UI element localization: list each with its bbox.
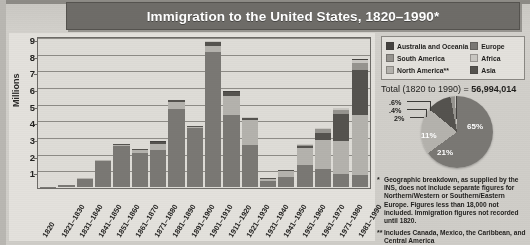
pie-slice-label-asia: 11% [421,131,437,140]
legend-swatch-icon [470,42,478,50]
legend-item-africa: Africa [470,52,520,64]
bar-segment [150,150,166,187]
bar-segment [58,185,74,187]
total-line: Total (1820 to 1990) = 56,994,014 [381,84,529,94]
bar-segment [223,96,239,115]
y-axis-tick-mark [34,158,37,159]
scan-edge-left [0,0,6,245]
page-title: Immigration to the United States, 1820–1… [147,9,440,24]
bar-segment [242,120,258,145]
bar-segment [77,179,93,187]
bar-segment [352,115,368,175]
y-axis-tick-label: 8 [9,52,35,63]
bar-column [39,37,57,187]
pie-slice-label-europe: 65% [467,122,483,131]
bar-stack [150,37,166,187]
legend-item-label: South America [397,55,445,62]
bar-series-group [39,37,369,187]
footnote-text: Includes Canada, Mexico, the Caribbean, … [384,229,527,245]
pie-chart: 65% 21% 11% 2% .4% .6% [381,96,529,170]
bar-segment [242,145,258,187]
bar-stack [132,37,148,187]
y-axis-tick-label: 7 [9,68,35,79]
bar-stack [352,37,368,187]
bar-segment [333,141,349,174]
pie-callout-oceania: .6% [389,98,401,107]
y-axis-tick-label: 2 [9,152,35,163]
x-axis-labels: 18201821–18301831–18401841–18501851–1860… [38,191,372,239]
leader-line-south-america [410,117,424,118]
legend-swatch-icon [386,66,394,74]
x-axis-tick-label: 1820 [41,220,57,239]
y-axis-tick-mark [34,91,37,92]
bar-segment [352,63,368,70]
footnote-marker: ** [377,229,382,236]
bar-stack [333,37,349,187]
page-background: Immigration to the United States, 1820–1… [0,0,530,245]
bar-segment [297,148,313,165]
plot-area [37,37,371,189]
bar-stack [187,37,203,187]
y-axis-tick-label: 6 [9,85,35,96]
leader-line-oceania [407,101,431,102]
bar-segment [333,174,349,187]
y-axis-tick-mark [34,141,37,142]
bar-column [332,37,350,187]
y-axis-tick-mark [34,124,37,125]
bar-stack [205,37,221,187]
legend-swatch-icon [470,66,478,74]
bar-segment [315,133,331,140]
bar-column [296,37,314,187]
legend-column-right: EuropeAfricaAsia [470,40,520,76]
bar-segment [315,140,331,169]
legend-item-europe: Europe [470,40,520,52]
bar-segment [260,181,276,187]
bar-column [277,37,295,187]
bar-stack [242,37,258,187]
bar-segment [223,115,239,188]
pie-callout-south-america: 2% [394,114,404,123]
y-axis-tick-label: 1 [9,168,35,179]
y-axis-tick-label: 3 [9,135,35,146]
legend-item-label: North America** [397,67,449,74]
bar-column [222,37,240,187]
bar-column [186,37,204,187]
bar-stack [315,37,331,187]
y-axis-tick-mark [34,108,37,109]
bar-segment [352,70,368,116]
bar-stack [260,37,276,187]
legend-item-namer: North America** [386,64,470,76]
bar-stack [95,37,111,187]
bar-segment [95,161,111,187]
bar-segment [315,169,331,187]
legend-item-label: Europe [481,43,504,50]
footnote-text: Geographic breakdown, as supplied by the… [384,176,527,225]
bar-column [94,37,112,187]
bar-column [149,37,167,187]
legend: Australia and OceaniaSouth AmericaNorth … [381,36,525,80]
bar-segment [132,153,148,187]
footnotes: *Geographic breakdown, as supplied by th… [377,176,527,245]
legend-item-label: Australia and Oceania [397,43,468,50]
bar-column [57,37,75,187]
leader-line-oceania-drop [430,101,431,111]
total-prefix: Total (1820 to 1990) = [381,84,471,94]
bar-column [76,37,94,187]
y-axis-tick-label: 5 [9,102,35,113]
bar-stack [223,37,239,187]
legend-item-label: Asia [481,67,495,74]
bar-stack [278,37,294,187]
y-axis-tick-mark [34,41,37,42]
y-axis-tick-label: 9 [9,35,35,46]
bar-column [241,37,259,187]
bar-segment [278,177,294,187]
bar-stack [40,37,56,187]
plot-area-wrapper: 987654321 [37,37,371,189]
bar-column [351,37,369,187]
footnote: **Includes Canada, Mexico, the Caribbean… [377,229,527,245]
pie-callout-africa: .4% [389,106,401,115]
bar-stack [297,37,313,187]
bar-segment [205,52,221,187]
legend-item-label: Africa [481,55,500,62]
legend-swatch-icon [386,54,394,62]
